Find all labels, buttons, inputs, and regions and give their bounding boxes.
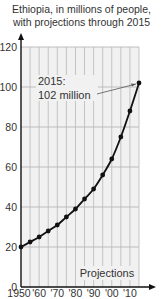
data-point — [19, 245, 24, 250]
y-tick-label: 40 — [5, 201, 17, 213]
y-tick-label: 100 — [0, 81, 17, 93]
annotation-value: 102 million — [38, 89, 91, 101]
x-tick-label: '10 — [123, 287, 137, 299]
x-tick-label: '70 — [50, 287, 64, 299]
data-point — [73, 207, 78, 212]
x-axis-arrow-icon — [149, 284, 156, 290]
x-tick-label: '90 — [87, 287, 101, 299]
y-tick-label: 20 — [5, 241, 17, 253]
y-tick-label: 80 — [5, 121, 17, 133]
x-tick-label: '60 — [32, 287, 46, 299]
data-point — [100, 173, 105, 178]
y-tick-label: 120 — [0, 41, 17, 53]
data-point — [91, 187, 96, 192]
x-tick-label: '00 — [105, 287, 119, 299]
data-point — [28, 240, 33, 245]
data-point — [109, 157, 114, 162]
data-point — [128, 109, 133, 114]
y-axis-arrow-icon — [18, 33, 24, 40]
data-point — [118, 135, 123, 140]
population-line-chart: 0204060801001201950'60'70'80'90'00'10201… — [0, 0, 163, 299]
data-point — [82, 197, 87, 202]
annotation-year: 2015: — [38, 75, 66, 87]
projections-label: Projections — [80, 267, 135, 279]
x-tick-label: '80 — [69, 287, 83, 299]
data-point — [46, 229, 51, 234]
data-point — [37, 235, 42, 240]
x-tick-label: 1950 — [7, 287, 31, 299]
data-point — [137, 81, 142, 86]
data-point — [55, 223, 60, 228]
data-point — [64, 215, 69, 220]
y-tick-label: 60 — [5, 161, 17, 173]
